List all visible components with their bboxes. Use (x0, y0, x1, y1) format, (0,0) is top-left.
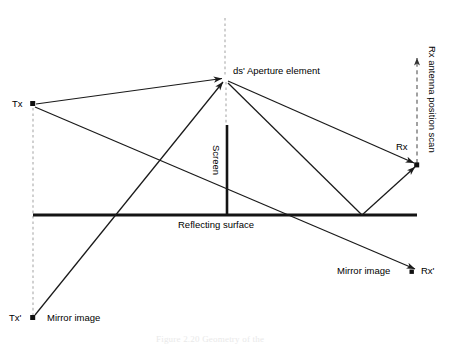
tx-point-marker (30, 101, 35, 106)
rx-scan-axis-label: Rx antenna position scan (428, 46, 438, 153)
reflecting-surface-label: Reflecting surface (178, 220, 254, 230)
figure-caption: Figure 2.20 Geometry of the (156, 334, 264, 344)
ray-aperture-to-surface (228, 83, 362, 215)
ray-tx-to-aperture (36, 79, 222, 105)
rx-point-marker (414, 162, 419, 167)
rx-mirror-image-note: Mirror image (337, 266, 390, 276)
aperture-element-label: ds' Aperture element (233, 66, 320, 76)
screen-label: Screen (212, 145, 222, 175)
ray-surface-to-rx (362, 167, 415, 215)
rx-mirror-point-marker (410, 270, 414, 274)
tx-mirror-image-note: Mirror image (47, 313, 100, 323)
tx-label: Tx (12, 99, 23, 109)
tx-mirror-label: Tx' (9, 313, 21, 323)
tx-mirror-point-marker (30, 315, 35, 320)
ray-aperture-to-rx (228, 81, 414, 163)
rx-label: Rx (396, 142, 408, 152)
ray-tx-mirror-to-aperture (35, 82, 223, 315)
rx-mirror-label: Rx' (421, 266, 434, 276)
